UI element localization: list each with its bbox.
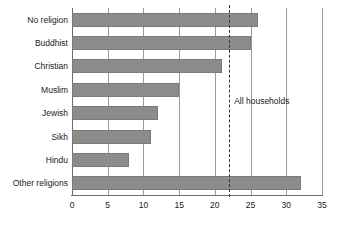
x-tick-30: 30	[282, 200, 291, 210]
all-households-reference-line	[229, 5, 230, 197]
y-axis-labels: No religionBuddhistChristianMuslimJewish…	[0, 8, 68, 195]
bar-row	[72, 13, 322, 27]
bar-christian	[72, 59, 222, 73]
all-households-label: All households	[234, 96, 289, 106]
plot-area: All households	[72, 8, 322, 195]
x-tick-0: 0	[70, 200, 75, 210]
bar-buddhist	[72, 36, 251, 50]
y-axis-label-no-religion: No religion	[2, 13, 68, 27]
x-axis-line	[71, 195, 323, 196]
bar-hindu	[72, 153, 129, 167]
bar-chart: No religionBuddhistChristianMuslimJewish…	[0, 0, 340, 227]
bar-other-religions	[72, 176, 301, 190]
gridline-35	[322, 8, 323, 195]
bar-jewish	[72, 106, 158, 120]
x-tick-5: 5	[105, 200, 110, 210]
x-tick-25: 25	[246, 200, 255, 210]
bar-muslim	[72, 83, 179, 97]
y-axis-label-sikh: Sikh	[2, 130, 68, 144]
bar-row	[72, 36, 322, 50]
y-axis-label-christian: Christian	[2, 59, 68, 73]
y-axis-label-buddhist: Buddhist	[2, 36, 68, 50]
bar-row	[72, 106, 322, 120]
bar-row	[72, 130, 322, 144]
y-axis-label-jewish: Jewish	[2, 106, 68, 120]
x-tick-10: 10	[139, 200, 148, 210]
x-axis-tick-labels: 05101520253035	[72, 200, 322, 218]
y-axis-label-muslim: Muslim	[2, 83, 68, 97]
bar-row	[72, 153, 322, 167]
x-tick-20: 20	[210, 200, 219, 210]
x-tick-35: 35	[317, 200, 326, 210]
bar-sikh	[72, 130, 151, 144]
y-axis-label-hindu: Hindu	[2, 153, 68, 167]
bar-row	[72, 176, 322, 190]
y-axis-label-other-religions: Other religions	[2, 176, 68, 190]
bar-row	[72, 59, 322, 73]
x-tick-15: 15	[174, 200, 183, 210]
